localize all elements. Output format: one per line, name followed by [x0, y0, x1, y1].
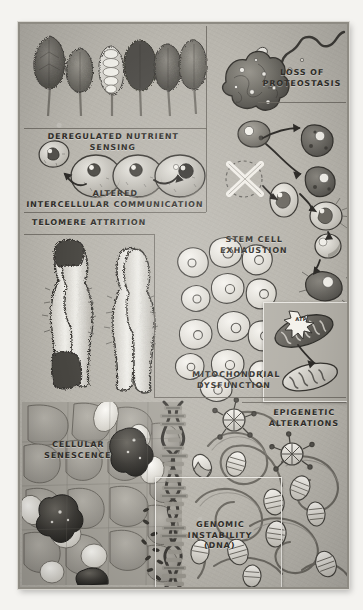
label-cellular-senescence: CELLULAR SENESCENCE — [34, 440, 123, 461]
divider-telomere-top — [24, 234, 154, 235]
label-genomic-instability: GENOMIC INSTABILITY (DNA) — [181, 520, 258, 552]
divider-mitochondrial — [154, 397, 346, 398]
atp-annotation: ATP — [290, 314, 312, 325]
label-loss-of-proteostasis: LOSS OF PROTEOSTASIS — [258, 68, 347, 89]
label-epigenetic-alterations: EPIGENETIC ALTERATIONS — [260, 408, 349, 429]
label-deregulated-nutrient-sensing: DEREGULATED NUTRIENT SENSING — [24, 132, 203, 153]
divider-epigenetic — [242, 402, 346, 403]
poster-canvas: ATP — [0, 0, 363, 610]
divider-vertical-mid — [206, 128, 207, 212]
chromosome-telomere-illustration — [36, 236, 176, 396]
divider-intercellular — [24, 212, 206, 213]
divider-vertical-top — [206, 26, 207, 130]
divider-nutrient-sensing — [24, 128, 206, 129]
vegetables-illustration — [28, 30, 203, 122]
label-stem-cell-exhaustion: STEM CELL EXHAUSTION — [208, 235, 301, 256]
mitochondria-inset-panel: ATP — [263, 302, 349, 402]
poster-frame: ATP — [18, 22, 349, 589]
label-telomere-attrition: TELOMERE ATTRITION — [24, 218, 154, 229]
label-altered-intercellular-communication: ALTERED INTERCELLULAR COMMUNICATION — [24, 189, 207, 210]
divider-proteostasis — [258, 102, 346, 103]
divider-vertical-telomere — [154, 234, 155, 397]
label-mitochondrial-dysfunction: MITOCHONDRIAL DYSFUNCTION — [192, 370, 277, 391]
